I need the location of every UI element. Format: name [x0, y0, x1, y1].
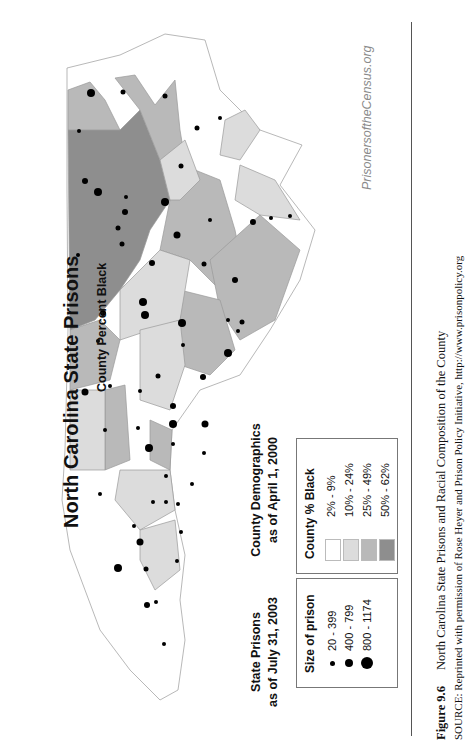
dot-medium-icon — [345, 659, 353, 667]
prison-dot — [163, 94, 168, 99]
prisons-heading-line1: State Prisons — [248, 592, 265, 712]
demographics-heading-line1: County Demographics — [248, 415, 265, 565]
prison-dot — [195, 126, 200, 131]
swatch-25-49 — [361, 539, 377, 561]
legend-label-10-24: 10% - 24% — [343, 463, 355, 517]
legend-label-2-9: 2% - 9% — [325, 475, 337, 517]
demographics-heading-line2: as of April 1, 2000 — [265, 415, 282, 565]
prison-dot — [202, 451, 206, 455]
prison-dot — [240, 320, 245, 325]
figure-caption: Figure 9.6North Carolina State Prisons a… — [434, 331, 449, 740]
prison-dot — [122, 209, 128, 215]
prison-dot — [175, 559, 179, 563]
prison-dot — [218, 116, 222, 120]
watermark: PrisonersoftheCensus.org — [360, 45, 374, 190]
prison-dot — [169, 420, 177, 428]
prison-dot — [250, 219, 256, 225]
dot-small-icon — [330, 661, 335, 666]
prison-dot — [154, 600, 158, 604]
prison-dot — [156, 374, 161, 379]
prison-dot — [164, 500, 168, 504]
prison-dot — [121, 90, 126, 95]
caption-divider — [411, 22, 412, 736]
prisons-legend-heading: State Prisons as of July 31, 2003 — [248, 592, 282, 712]
prison-dot — [116, 226, 121, 231]
figure-number: Figure 9.6 — [434, 686, 448, 740]
prison-dot — [288, 214, 292, 218]
legend-label-800-1174: 800 - 1174 — [361, 599, 373, 651]
demographics-legend-box: County % Black 2% - 9% 10% - 24% 25% - 4… — [296, 438, 398, 574]
caption-text: North Carolina State Prisons and Racial … — [434, 331, 448, 670]
prison-dot — [120, 242, 125, 247]
prison-dot — [98, 492, 102, 496]
demographics-legend-title: County % Black — [303, 468, 317, 559]
prison-dot — [124, 195, 128, 199]
swatch-10-24 — [343, 539, 359, 561]
prison-dot — [190, 482, 194, 486]
prison-dot — [162, 642, 166, 646]
dot-large-icon — [361, 657, 373, 669]
map-title: North Carolina State Prisons — [60, 256, 83, 528]
prison-dot — [87, 89, 95, 97]
swatch-50-62 — [379, 539, 395, 561]
prison-dot — [164, 474, 168, 478]
legend-label-50-62: 50% - 62% — [379, 463, 391, 517]
prison-dot — [179, 530, 183, 534]
legend-label-25-49: 25% - 49% — [361, 463, 373, 517]
prison-dot — [170, 403, 176, 409]
legend-label-400-799: 400 - 799 — [343, 605, 355, 651]
prison-dot — [224, 349, 232, 357]
prison-dot — [178, 319, 186, 327]
prison-dot — [226, 318, 230, 322]
prison-dot — [144, 602, 150, 608]
prison-dot — [151, 500, 155, 504]
prisons-legend-title: Size of prison — [303, 594, 317, 673]
figure-source: SOURCE: Reprinted with permission of Ros… — [452, 256, 464, 740]
prison-dot — [82, 178, 88, 184]
prison-dot — [171, 442, 175, 446]
prison-dot — [139, 298, 147, 306]
prison-dot — [132, 524, 136, 528]
prison-dot — [200, 374, 206, 380]
prison-dot — [141, 311, 149, 319]
prison-dot — [202, 421, 209, 428]
prison-dot — [138, 389, 142, 393]
demographics-legend-heading: County Demographics as of April 1, 2000 — [248, 415, 282, 565]
prison-dot — [202, 262, 207, 267]
prison-dot — [232, 277, 238, 283]
prison-dot — [176, 502, 180, 506]
prison-dot — [181, 343, 185, 347]
prison-dot — [94, 188, 102, 196]
prisons-heading-line2: as of July 31, 2003 — [265, 592, 282, 712]
prison-dot — [136, 426, 140, 430]
prison-dot — [269, 216, 273, 220]
prison-dot — [208, 218, 212, 222]
map-subtitle: County Percent Black — [95, 263, 109, 392]
prison-dot — [144, 567, 149, 572]
legend-label-20-399: 20 - 399 — [326, 611, 338, 651]
prison-dot — [149, 260, 155, 266]
prisons-legend-box: Size of prison 20 - 399 400 - 799 800 - … — [296, 578, 398, 688]
prison-dot — [77, 129, 81, 133]
prison-dot — [236, 329, 240, 333]
prison-dot — [114, 564, 122, 572]
prison-dot — [137, 539, 144, 546]
prison-dot — [145, 444, 153, 452]
prison-dot — [179, 164, 184, 169]
swatch-2-9 — [325, 539, 341, 561]
prison-dot — [174, 232, 181, 239]
prison-dot — [103, 428, 107, 432]
prison-dot — [161, 198, 169, 206]
